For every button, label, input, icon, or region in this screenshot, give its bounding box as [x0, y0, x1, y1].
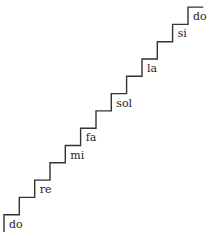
- note-label-do-low: do: [9, 219, 23, 230]
- note-label-re: re: [40, 184, 52, 195]
- staircase-line: [4, 7, 203, 232]
- note-label-do-high: do: [193, 11, 207, 22]
- note-label-mi: mi: [70, 150, 84, 161]
- note-label-fa: fa: [86, 132, 97, 143]
- note-label-sol: sol: [116, 98, 132, 109]
- note-label-si: si: [178, 28, 187, 39]
- note-label-la: la: [147, 63, 157, 74]
